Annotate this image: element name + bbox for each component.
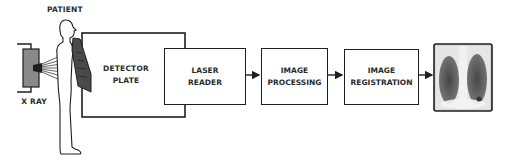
laser-reader-box: LASER READER: [164, 48, 246, 105]
image-registration-label: IMAGE REGISTRATION: [351, 65, 413, 89]
xray-source-icon: [17, 44, 62, 92]
image-registration-box: IMAGE REGISTRATION: [344, 49, 419, 105]
diagram-canvas: PATIENT X RAY DETECTOR PLATE LASER READE…: [0, 0, 507, 162]
patient-label: PATIENT: [40, 4, 90, 16]
chest-xray-image-icon: [434, 44, 492, 111]
xray-label: X RAY: [16, 96, 52, 108]
detector-plate-label: DETECTOR PLATE: [96, 63, 156, 87]
laser-reader-label: LASER READER: [188, 65, 222, 89]
diagram-graphics: [0, 0, 507, 162]
image-processing-label: IMAGE PROCESSING: [268, 65, 322, 89]
image-processing-box: IMAGE PROCESSING: [261, 48, 328, 105]
